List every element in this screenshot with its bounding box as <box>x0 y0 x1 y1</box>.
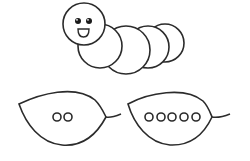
leaf-outline <box>19 92 106 146</box>
left-eye <box>75 18 81 24</box>
leaf-dot <box>192 113 200 121</box>
leaf-dot <box>53 113 61 121</box>
leaf-dot <box>180 113 188 121</box>
leaf-dot <box>64 113 72 121</box>
caterpillar-leaves-illustration <box>0 0 250 161</box>
leaf-with-2-dots <box>19 92 121 146</box>
caterpillar-head <box>63 3 105 45</box>
leaf-dot <box>168 113 176 121</box>
smile-mouth <box>78 29 89 37</box>
leaf-stem <box>106 114 121 117</box>
leaf-stem <box>212 114 230 117</box>
caterpillar <box>63 3 184 74</box>
leaf-dot <box>157 113 165 121</box>
leaf-with-5-dots <box>128 92 230 145</box>
leaf-dot <box>145 113 153 121</box>
right-eye <box>86 18 92 24</box>
